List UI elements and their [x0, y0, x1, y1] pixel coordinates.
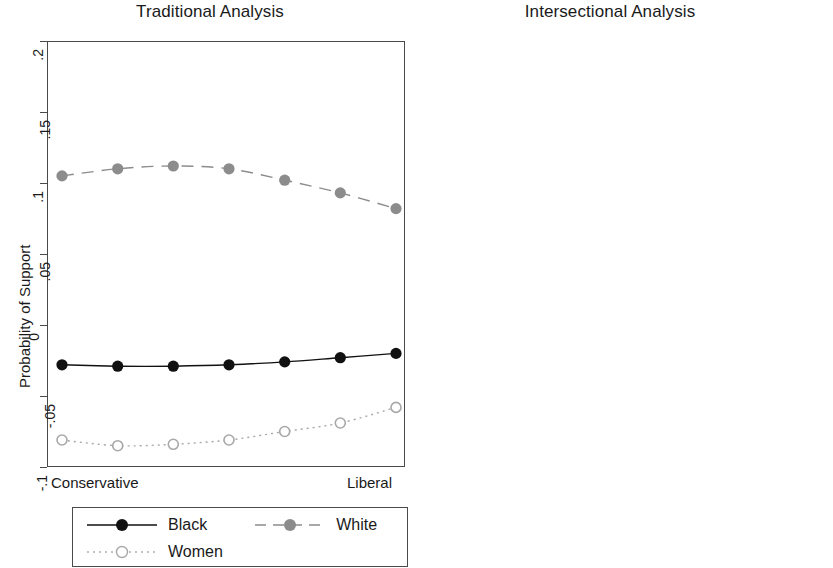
data-point-marker: [279, 356, 290, 367]
data-point-marker: [391, 402, 401, 412]
legend-left: Black White Women: [72, 507, 408, 567]
legend-row-2-left: Women: [85, 539, 223, 565]
data-point-marker: [280, 427, 290, 437]
data-point-marker: [112, 163, 123, 174]
legend-entry-black[interactable]: Black: [85, 516, 207, 534]
data-point-marker: [168, 160, 179, 171]
data-point-marker: [279, 175, 290, 186]
y-tick-label: -.05: [42, 404, 58, 428]
data-point-marker: [335, 352, 346, 363]
legend-label-black: Black: [168, 516, 207, 534]
data-point-marker: [168, 439, 178, 449]
data-point-marker: [224, 435, 234, 445]
data-point-marker: [113, 441, 123, 451]
y-tick-mark: [40, 254, 47, 255]
data-point-marker: [56, 170, 67, 181]
figure-root: Traditional Analysis Probability of Supp…: [0, 0, 833, 568]
legend-row-1-left: Black White: [85, 512, 377, 538]
y-tick-label: -.1: [34, 475, 50, 491]
data-point-marker: [390, 348, 401, 359]
y-tick-label: 0: [26, 333, 42, 341]
legend-key-black: [85, 516, 159, 534]
legend-entry-women[interactable]: Women: [85, 543, 223, 561]
data-point-marker: [223, 359, 234, 370]
data-point-marker: [56, 359, 67, 370]
y-tick-label: .1: [30, 191, 46, 203]
data-point-marker: [335, 187, 346, 198]
data-point-marker: [223, 163, 234, 174]
data-point-marker: [335, 418, 345, 428]
y-tick-mark: [40, 467, 47, 468]
y-tick-mark: [40, 325, 47, 326]
x-tick-liberal-left: Liberal: [347, 474, 392, 491]
x-tick-conservative-left: Conservative: [51, 474, 139, 491]
series-layer-right: [420, 0, 833, 568]
y-tick-mark: [40, 41, 47, 42]
data-point-marker: [168, 361, 179, 372]
data-point-marker: [390, 203, 401, 214]
legend-label-white: White: [336, 516, 377, 534]
legend-key-women: [85, 543, 159, 561]
y-tick-label: .15: [37, 120, 53, 139]
legend-key-white: [253, 516, 327, 534]
y-tick-label: .2: [30, 49, 46, 61]
y-tick-label: .05: [37, 262, 53, 281]
y-tick-mark: [40, 396, 47, 397]
y-tick-mark: [40, 183, 47, 184]
legend-label-women: Women: [168, 543, 223, 561]
data-point-marker: [57, 435, 67, 445]
legend-entry-white[interactable]: White: [253, 516, 377, 534]
y-tick-mark: [40, 112, 47, 113]
panel-intersectional-analysis: Intersectional Analysis Probability of S…: [420, 0, 833, 568]
data-point-marker: [112, 361, 123, 372]
panel-traditional-analysis: Traditional Analysis Probability of Supp…: [0, 0, 420, 568]
